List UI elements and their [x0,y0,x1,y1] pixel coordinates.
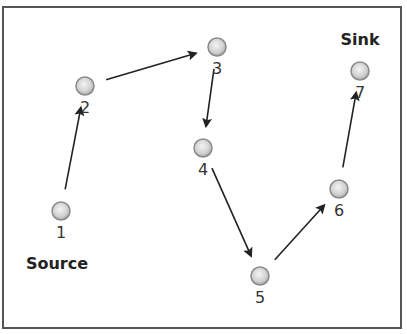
sink-label: Sink [340,30,379,49]
edge-arrow-4-5 [212,168,251,256]
node-3 [208,38,226,56]
node-label-2: 2 [80,98,90,117]
edge-arrow-2-3 [106,53,196,80]
node-2 [76,77,94,95]
node-label-1: 1 [56,223,66,242]
source-label: Source [26,254,88,273]
node-label-6: 6 [334,201,344,220]
node-7 [351,62,369,80]
node-1 [52,202,70,220]
node-6 [330,180,348,198]
edge-arrow-6-7 [343,93,356,168]
node-label-5: 5 [255,288,265,307]
node-label-7: 7 [355,83,365,102]
edge-arrow-5-6 [275,205,324,259]
node-label-3: 3 [212,59,222,78]
edge-arrow-1-2 [65,108,81,190]
node-label-4: 4 [198,160,208,179]
node-5 [251,267,269,285]
node-4 [194,139,212,157]
